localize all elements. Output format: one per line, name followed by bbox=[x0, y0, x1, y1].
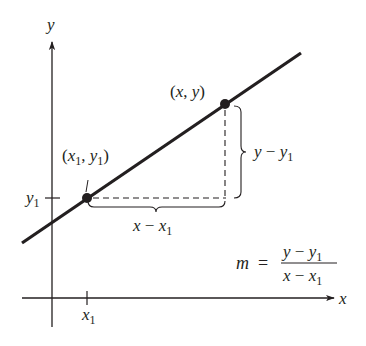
y-axis-label: y bbox=[45, 15, 55, 34]
run-brace bbox=[88, 201, 225, 212]
formula-denominator: x − x1 bbox=[282, 266, 322, 288]
point-label-leader bbox=[86, 180, 88, 192]
point-x-y bbox=[220, 99, 230, 109]
point-slope-diagram: y x x1 y1 (x1, y1) (x, y) y − y1 x − x1 … bbox=[0, 0, 366, 346]
x1-tick-label: x1 bbox=[81, 305, 96, 327]
point-x1-y1 bbox=[82, 193, 92, 203]
point-x-y-label: (x, y) bbox=[170, 82, 205, 101]
formula-numerator: y − y1 bbox=[281, 242, 322, 264]
formula-lhs: m bbox=[236, 253, 249, 273]
formula-equals: = bbox=[258, 253, 268, 273]
rise-label: y − y1 bbox=[252, 142, 293, 164]
x-axis-label: x bbox=[338, 289, 347, 308]
y1-tick-label: y1 bbox=[24, 188, 40, 210]
point-x1-y1-label: (x1, y1) bbox=[62, 146, 109, 168]
rise-brace bbox=[234, 106, 246, 198]
run-label: x − x1 bbox=[132, 216, 172, 238]
